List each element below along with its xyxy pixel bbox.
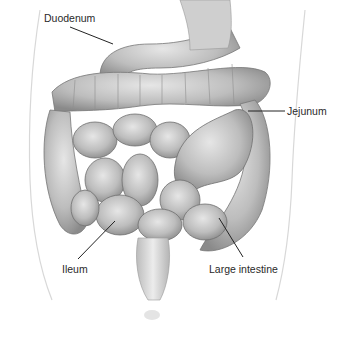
- ileum-label: Ileum: [62, 263, 88, 275]
- duodenum-leader-line: [70, 27, 113, 44]
- duodenum-shape: [100, 0, 240, 80]
- transverse-colon: [52, 64, 270, 112]
- intestine-diagram: Duodenum Jejunum Ileum Large intestine: [0, 0, 348, 343]
- intestine-illustration: [0, 0, 348, 343]
- rectum: [136, 238, 169, 300]
- duodenum-label: Duodenum: [44, 12, 95, 24]
- small-intestine-loops: [71, 110, 253, 241]
- anus-shading: [144, 310, 160, 320]
- large-intestine-label: Large intestine: [209, 263, 278, 275]
- jejunum-label: Jejunum: [287, 105, 327, 117]
